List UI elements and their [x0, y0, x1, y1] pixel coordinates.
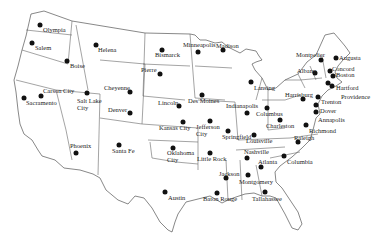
- capital-label: Tallahassee: [252, 196, 282, 203]
- capital-marker: [158, 72, 163, 77]
- capital-marker: [74, 151, 79, 156]
- capital-marker: [30, 41, 35, 46]
- capital-marker: [163, 190, 168, 195]
- capital-marker: [38, 23, 43, 28]
- capital-marker: [245, 111, 250, 116]
- capital-marker: [304, 123, 309, 128]
- capital-label: Nashville: [244, 149, 269, 156]
- capital-label: Kansas City: [159, 125, 191, 132]
- capital-label: Columbus: [256, 111, 283, 118]
- capital-label: Des Moines: [188, 98, 219, 105]
- capital-marker: [316, 95, 321, 100]
- capital-label: Boise: [70, 63, 85, 70]
- capital-marker: [282, 154, 287, 159]
- capital-marker: [128, 111, 133, 116]
- capital-label: Dover: [320, 108, 336, 115]
- capital-label: Helena: [98, 47, 116, 54]
- capital-marker: [331, 74, 336, 79]
- capital-label: Jackson: [219, 171, 240, 178]
- capital-label: Columbia: [287, 159, 313, 166]
- capital-label: Montpelier: [296, 52, 325, 59]
- capital-label: Salem: [35, 45, 51, 52]
- capital-label: Lansing: [254, 85, 275, 92]
- capital-label: Indianapolis: [226, 103, 258, 110]
- capital-label: Denver: [108, 107, 127, 114]
- capital-label: Richmond: [309, 128, 336, 135]
- capital-marker: [330, 84, 335, 89]
- capital-label: Hartford: [336, 85, 358, 92]
- capital-label: Madison: [216, 43, 239, 50]
- capital-marker: [196, 50, 201, 55]
- capital-label: Augusta: [339, 55, 361, 62]
- capital-label: Bismarck: [155, 52, 180, 59]
- capital-marker: [246, 173, 251, 178]
- capital-marker: [263, 190, 268, 195]
- capital-label: Lincoln: [158, 100, 178, 107]
- capital-label: Santa Fe: [112, 148, 135, 155]
- capital-label: Harrisburg: [285, 92, 313, 99]
- capital-marker: [65, 59, 70, 64]
- capital-label: Louisville: [246, 138, 272, 145]
- capital-label: Providence: [341, 94, 370, 101]
- capital-marker: [85, 91, 90, 96]
- capital-label: Montgomery: [239, 179, 273, 186]
- capital-label: Little Rock: [197, 156, 226, 163]
- capital-label: Carson City: [43, 88, 74, 95]
- capital-label: Albany: [297, 68, 316, 75]
- capital-label: Baton Rouge: [203, 196, 237, 203]
- capital-marker: [245, 156, 250, 161]
- capital-label: Pierre: [141, 67, 157, 74]
- capital-label: Atlanta: [258, 159, 277, 166]
- capital-label: Jefferson City: [196, 124, 220, 137]
- capital-label: Olympia: [43, 27, 66, 34]
- capital-label: Boston: [336, 72, 354, 79]
- capital-label: Raleigh: [294, 135, 314, 142]
- capital-marker: [314, 103, 319, 108]
- capital-label: Charleston: [266, 123, 294, 130]
- capital-label: Austin: [168, 195, 185, 202]
- capital-label: Sacramento: [26, 100, 57, 107]
- capital-label: Oklahoma City: [167, 150, 194, 163]
- capital-label: Trenton: [321, 99, 341, 106]
- capital-marker: [334, 56, 339, 61]
- capital-label: Minneapolis: [183, 42, 216, 49]
- capital-marker: [314, 110, 319, 115]
- capital-label: Cheyenne: [104, 85, 130, 92]
- capital-marker: [249, 80, 254, 85]
- capital-label: Salt Lake City: [77, 98, 102, 111]
- capital-label: Annapolis: [318, 117, 345, 124]
- capital-label: Phoenix: [70, 143, 91, 150]
